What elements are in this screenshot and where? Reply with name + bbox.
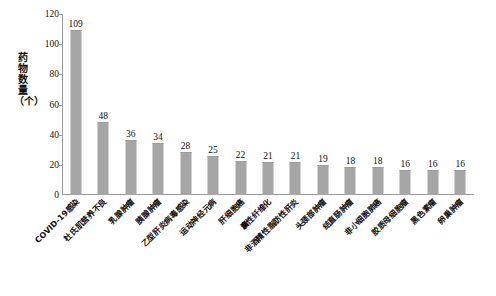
bar-slot[interactable]: 109 xyxy=(62,14,89,195)
bar[interactable] xyxy=(235,161,246,195)
x-axis-category-label-text: 乙型肝炎病毒感染 xyxy=(139,197,191,249)
bar[interactable] xyxy=(125,140,136,195)
bar-slot[interactable]: 28 xyxy=(172,14,199,195)
bar[interactable] xyxy=(400,170,411,195)
bar-chart: 药 物 数 量 （个） 120100806040200 109483634282… xyxy=(0,0,496,296)
bar-slot[interactable]: 18 xyxy=(337,14,364,195)
bar-value-label: 16 xyxy=(401,159,411,169)
y-axis-tick-label: 120 xyxy=(35,10,59,20)
bar[interactable] xyxy=(455,170,466,195)
bar-value-label: 21 xyxy=(291,151,301,161)
x-axis-category-label-text: 黑色素瘤 xyxy=(409,197,438,226)
y-axis-tick-label: 80 xyxy=(35,70,59,80)
bar-value-label: 16 xyxy=(428,159,438,169)
bar-slot[interactable]: 21 xyxy=(282,14,309,195)
bar-slot[interactable]: 48 xyxy=(89,14,116,195)
bar-slot[interactable]: 36 xyxy=(117,14,144,195)
bar-value-label: 34 xyxy=(153,132,163,142)
bar-value-label: 18 xyxy=(373,156,383,166)
bar[interactable] xyxy=(262,162,273,195)
bars-layer: 1094836342825222121191818161616 xyxy=(62,14,474,195)
bar-value-label: 25 xyxy=(208,145,218,155)
bar[interactable] xyxy=(345,167,356,195)
bar[interactable] xyxy=(208,156,219,195)
bar-slot[interactable]: 16 xyxy=(419,14,446,195)
bar[interactable] xyxy=(98,122,109,195)
y-axis-title-unit: （个） xyxy=(14,96,32,107)
y-axis-tick-label: 0 xyxy=(35,191,59,201)
x-axis-category-labels: COVID-19感染杜氏肌营养不良乳腺肿瘤胰腺肿瘤乙型肝炎病毒感染运动神经元病肝… xyxy=(62,197,496,296)
bar-slot[interactable]: 21 xyxy=(254,14,281,195)
bar-value-label: 109 xyxy=(69,19,83,29)
y-axis-title: 药 物 数 量 （个） xyxy=(14,52,32,107)
bar-value-label: 28 xyxy=(181,141,191,151)
y-axis-title-char-2: 物 xyxy=(14,63,32,74)
bar-value-label: 36 xyxy=(126,129,136,139)
bar-value-label: 19 xyxy=(318,154,328,164)
bar-value-label: 21 xyxy=(263,151,273,161)
bar-value-label: 22 xyxy=(236,150,246,160)
bar-slot[interactable]: 16 xyxy=(447,14,474,195)
bar-value-label: 18 xyxy=(346,156,356,166)
y-axis-tick-label: 20 xyxy=(35,160,59,170)
bar-slot[interactable]: 16 xyxy=(392,14,419,195)
bar[interactable] xyxy=(427,170,438,195)
bar[interactable] xyxy=(70,30,81,195)
x-axis-category-label-text: 非酒精性脂肪性肝炎 xyxy=(244,197,301,254)
bar[interactable] xyxy=(180,152,191,195)
bar[interactable] xyxy=(153,143,164,195)
y-axis-tick-labels: 120100806040200 xyxy=(33,0,59,296)
y-axis-tick-label: 60 xyxy=(35,100,59,110)
y-axis-tick-label: 100 xyxy=(35,40,59,50)
x-axis-category-label-text: 乳腺肿瘤 xyxy=(107,197,136,226)
x-axis-category-label-text: 卵巢肿瘤 xyxy=(437,197,466,226)
y-axis-title-char-3: 数 xyxy=(14,74,32,85)
bar-slot[interactable]: 19 xyxy=(309,14,336,195)
y-axis-title-char-4: 量 xyxy=(14,85,32,96)
bar-value-label: 16 xyxy=(456,159,466,169)
bar[interactable] xyxy=(290,162,301,195)
bar[interactable] xyxy=(317,165,328,195)
bar-slot[interactable]: 22 xyxy=(227,14,254,195)
bar-value-label: 48 xyxy=(98,111,108,121)
y-axis-title-char-1: 药 xyxy=(14,52,32,63)
bar[interactable] xyxy=(372,167,383,195)
bar-slot[interactable]: 18 xyxy=(364,14,391,195)
bar-slot[interactable]: 25 xyxy=(199,14,226,195)
y-axis-tick-label: 40 xyxy=(35,130,59,140)
bar-slot[interactable]: 34 xyxy=(144,14,171,195)
